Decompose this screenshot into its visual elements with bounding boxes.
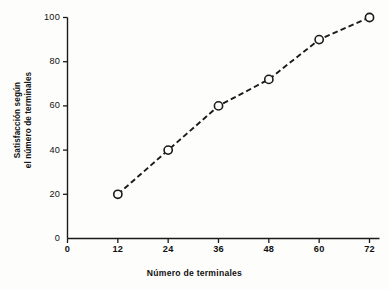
x-axis-tick-labels: 0122436486072 — [0, 245, 389, 259]
data-point-36 — [214, 102, 222, 110]
data-point-12 — [114, 190, 122, 198]
x-tick-label-12: 12 — [104, 245, 132, 254]
x-tick-label-48: 48 — [255, 245, 283, 254]
x-tick-label-0: 0 — [54, 245, 82, 254]
data-point-72 — [365, 13, 373, 21]
data-point-markers — [114, 13, 374, 198]
x-tick-label-36: 36 — [205, 245, 233, 254]
chart-figure: Satisfacción según el número de terminal… — [0, 0, 389, 290]
series-polyline — [118, 18, 370, 195]
data-point-60 — [315, 36, 323, 44]
series-line — [118, 18, 370, 195]
x-tick-label-60: 60 — [305, 245, 333, 254]
axes — [63, 18, 380, 244]
x-tick-label-72: 72 — [356, 245, 384, 254]
data-point-48 — [265, 75, 273, 83]
data-point-24 — [164, 146, 172, 154]
x-axis-title: Número de terminales — [0, 268, 389, 278]
x-tick-label-24: 24 — [154, 245, 182, 254]
